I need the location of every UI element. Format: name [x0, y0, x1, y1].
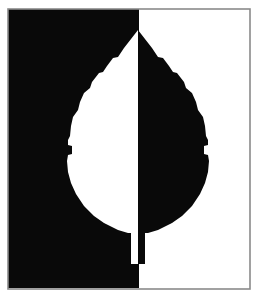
artwork-canvas: [0, 0, 260, 307]
leaf-reversal-illustration: [0, 0, 260, 307]
